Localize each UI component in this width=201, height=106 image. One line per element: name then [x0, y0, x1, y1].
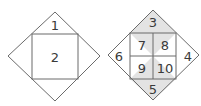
right-figure: 3 4 5 6 7 8 9 10 [108, 10, 199, 100]
label-5: 5 [149, 82, 157, 97]
label-9: 9 [138, 61, 146, 76]
label-1: 1 [51, 18, 59, 33]
left-figure: 1 2 [8, 12, 100, 101]
label-8: 8 [161, 38, 169, 53]
label-10: 10 [157, 61, 174, 76]
label-6: 6 [115, 49, 123, 64]
label-3: 3 [149, 15, 157, 30]
diagram-canvas: 1 2 3 4 5 6 7 8 9 10 [0, 0, 201, 106]
label-2: 2 [51, 50, 59, 65]
label-4: 4 [184, 49, 192, 64]
label-7: 7 [138, 38, 146, 53]
